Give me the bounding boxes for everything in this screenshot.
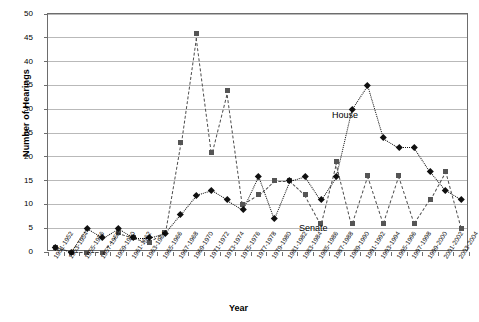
y-axis-tick-label: 20 bbox=[7, 152, 33, 161]
x-axis-tick bbox=[438, 252, 439, 256]
y-axis-tick-label: 5 bbox=[7, 223, 33, 232]
x-axis-tick bbox=[157, 252, 158, 256]
series-line-house bbox=[367, 85, 384, 138]
x-axis-title: Year bbox=[0, 303, 477, 313]
x-axis-tick bbox=[407, 252, 408, 256]
plot-area: 05101520253035404550 bbox=[47, 13, 468, 251]
y-axis-tick-label: 40 bbox=[7, 57, 33, 66]
data-point-house bbox=[318, 196, 324, 202]
x-axis-tick bbox=[48, 252, 49, 256]
y-axis-tick-label: 25 bbox=[7, 128, 33, 137]
data-point-senate bbox=[365, 173, 370, 178]
y-axis-tick bbox=[44, 204, 48, 205]
series-line-senate bbox=[367, 176, 384, 224]
x-axis-tick bbox=[344, 252, 345, 256]
x-axis-tick bbox=[282, 252, 283, 256]
series-line-senate bbox=[321, 162, 338, 224]
series-line-senate bbox=[383, 176, 400, 224]
y-axis-tick bbox=[44, 133, 48, 134]
y-axis-tick-label: 10 bbox=[7, 199, 33, 208]
data-point-senate bbox=[334, 159, 339, 164]
data-point-senate bbox=[178, 140, 183, 145]
x-axis-tick bbox=[220, 252, 221, 256]
series-line-senate bbox=[181, 33, 198, 143]
data-point-senate bbox=[396, 173, 401, 178]
x-axis-tick bbox=[204, 252, 205, 256]
series-label-house: House bbox=[332, 110, 358, 120]
x-axis-tick bbox=[375, 252, 376, 256]
series-line-senate bbox=[195, 33, 212, 152]
x-axis-tick bbox=[64, 252, 65, 256]
gridline bbox=[48, 37, 467, 38]
x-axis-tick bbox=[329, 252, 330, 256]
series-line-house bbox=[274, 181, 291, 219]
data-point-senate bbox=[350, 221, 355, 226]
data-point-senate bbox=[272, 178, 277, 183]
y-axis-tick-label: 30 bbox=[7, 104, 33, 113]
data-point-house bbox=[396, 144, 402, 150]
series-line-senate bbox=[212, 90, 229, 152]
x-axis-tick bbox=[188, 252, 189, 256]
gridline bbox=[48, 228, 467, 229]
y-axis-tick bbox=[44, 14, 48, 15]
x-axis-tick bbox=[313, 252, 314, 256]
y-axis-tick bbox=[44, 156, 48, 157]
y-axis-tick bbox=[44, 180, 48, 181]
data-point-house bbox=[458, 196, 464, 202]
x-axis-tick bbox=[142, 252, 143, 256]
y-axis-tick bbox=[44, 85, 48, 86]
data-point-senate bbox=[381, 221, 386, 226]
data-point-senate bbox=[303, 192, 308, 197]
y-axis-tick bbox=[44, 109, 48, 110]
x-axis-tick bbox=[235, 252, 236, 256]
data-point-senate bbox=[428, 197, 433, 202]
y-axis-tick-label: 15 bbox=[7, 176, 33, 185]
x-axis-tick bbox=[391, 252, 392, 256]
gridline bbox=[48, 204, 467, 205]
data-point-house bbox=[302, 173, 308, 179]
gridline bbox=[48, 61, 467, 62]
data-point-senate bbox=[412, 221, 417, 226]
y-axis-tick bbox=[44, 37, 48, 38]
series-line-senate bbox=[398, 176, 415, 224]
data-point-senate bbox=[194, 31, 199, 36]
gridline bbox=[48, 14, 467, 15]
x-axis-tick bbox=[110, 252, 111, 256]
x-axis-tick bbox=[266, 252, 267, 256]
data-point-senate bbox=[443, 169, 448, 174]
x-axis-tick bbox=[360, 252, 361, 256]
gridline bbox=[48, 109, 467, 110]
y-axis-tick-label: 50 bbox=[7, 9, 33, 18]
gridline bbox=[48, 133, 467, 134]
data-point-house bbox=[255, 173, 261, 179]
x-axis-tick bbox=[173, 252, 174, 256]
x-axis-tick bbox=[126, 252, 127, 256]
series-line-senate bbox=[352, 176, 369, 224]
y-axis-tick bbox=[44, 228, 48, 229]
x-axis-tick bbox=[453, 252, 454, 256]
x-axis-tick bbox=[422, 252, 423, 256]
series-line-senate bbox=[226, 90, 243, 204]
data-point-senate bbox=[209, 150, 214, 155]
x-axis-tick bbox=[251, 252, 252, 256]
y-axis-tick bbox=[44, 61, 48, 62]
y-axis-tick-label: 45 bbox=[7, 33, 33, 42]
x-axis-tick bbox=[297, 252, 298, 256]
series-line-house bbox=[414, 147, 430, 171]
gridline bbox=[48, 156, 467, 157]
data-point-house bbox=[271, 215, 277, 221]
x-axis-tick bbox=[469, 252, 470, 256]
series-line-house bbox=[352, 85, 368, 109]
gridline bbox=[48, 85, 467, 86]
y-axis-tick-label: 0 bbox=[7, 247, 33, 256]
data-point-house bbox=[411, 144, 417, 150]
y-axis-tick-label: 35 bbox=[7, 80, 33, 89]
data-point-senate bbox=[256, 192, 261, 197]
data-point-senate bbox=[225, 88, 230, 93]
